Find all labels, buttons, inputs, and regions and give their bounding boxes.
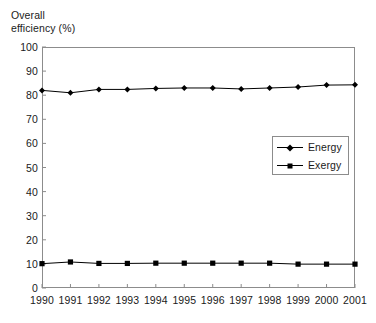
x-tick-label: 1990 [30, 295, 54, 306]
chart-legend: Energy Exergy [272, 136, 349, 175]
x-tick-label: 2000 [315, 295, 339, 306]
x-tick-label: 1992 [87, 295, 111, 306]
x-tick-label: 1999 [286, 295, 310, 306]
legend-item-exergy: Exergy [273, 156, 350, 175]
chart-figure: Overall efficiency (%) 01020304050607080… [0, 0, 376, 323]
x-axis-ticks [42, 284, 355, 288]
legend-item-energy: Energy [273, 138, 350, 157]
x-tick-label: 1993 [115, 295, 139, 306]
legend-swatch-energy [277, 142, 303, 154]
x-tick-label: 1996 [201, 295, 225, 306]
x-tick-label: 1998 [258, 295, 282, 306]
x-tick-label: 2001 [343, 295, 367, 306]
caption-fragment [0, 313, 376, 323]
x-tick-label: 1995 [172, 295, 196, 306]
square-marker-icon [288, 163, 293, 168]
x-tick-label: 1997 [229, 295, 253, 306]
legend-label-exergy: Exergy [308, 160, 341, 171]
x-tick-label: 1994 [144, 295, 168, 306]
legend-label-energy: Energy [308, 142, 342, 153]
x-tick-label: 1991 [59, 295, 83, 306]
diamond-marker-icon [286, 144, 293, 151]
y-axis-ticks [42, 47, 46, 288]
legend-swatch-exergy [277, 160, 303, 172]
